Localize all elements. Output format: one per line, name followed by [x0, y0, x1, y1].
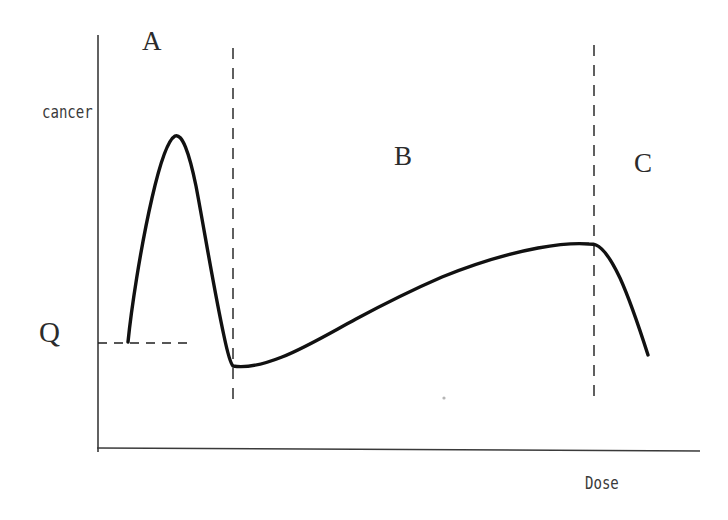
- x-axis-line: [97, 448, 700, 451]
- x-axis-label: Dose: [585, 474, 619, 492]
- scan-speck-artifact: [442, 396, 445, 399]
- plot-canvas: [0, 0, 728, 520]
- zone-label-b: B: [394, 143, 412, 170]
- zone-label-a: A: [142, 28, 162, 55]
- y-axis-label: cancer: [42, 103, 93, 121]
- zone-label-c: C: [634, 150, 652, 177]
- dose-response-curve: [128, 136, 648, 367]
- dose-response-figure: cancer Dose A B C Q: [0, 0, 728, 520]
- q-level-label: Q: [39, 318, 60, 347]
